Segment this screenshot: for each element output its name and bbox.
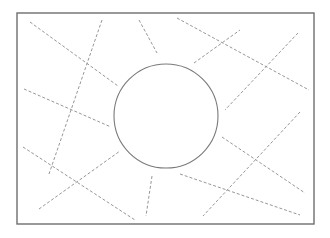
dashed-line-b: [49, 20, 102, 174]
dashed-line-e: [39, 151, 120, 209]
dashed-line-g: [139, 20, 157, 53]
dashed-line-h: [177, 18, 309, 90]
dashed-line-d: [23, 147, 135, 220]
dashed-line-j: [225, 33, 298, 110]
dashed-line-k: [203, 112, 300, 216]
dashed-lines-group: [23, 18, 309, 220]
dashed-line-i: [194, 30, 240, 63]
central-circle: [114, 64, 218, 168]
dashed-line-l: [222, 137, 305, 193]
dashed-line-f: [146, 176, 152, 216]
dashed-line-a: [30, 22, 118, 86]
dashed-line-m: [180, 174, 300, 215]
diagram-canvas: [0, 0, 330, 238]
frame-rectangle: [17, 13, 314, 224]
